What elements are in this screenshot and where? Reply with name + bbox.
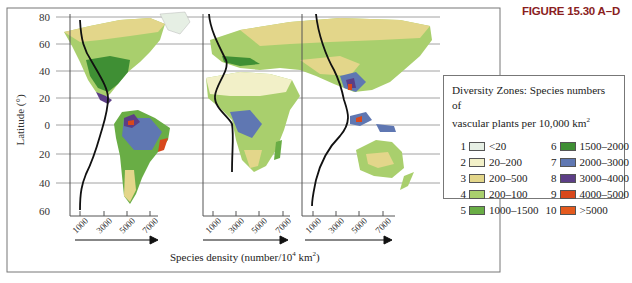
svg-text:3000: 3000	[226, 215, 246, 235]
legend-swatch	[560, 206, 576, 215]
svg-text:7000: 7000	[140, 215, 160, 235]
legend-item: 3200–500	[452, 171, 539, 186]
svg-text:1000: 1000	[203, 215, 223, 235]
svg-text:1000: 1000	[303, 215, 323, 235]
legend-swatch	[560, 190, 576, 199]
legend-item: 1<20	[452, 139, 539, 154]
ytick-label: 60	[39, 38, 51, 50]
svg-text:5000: 5000	[249, 215, 269, 235]
world-map	[64, 12, 432, 204]
legend-swatch	[469, 158, 485, 167]
legend-item: 83000–4000	[543, 171, 630, 186]
legend-item: 61500–2000	[543, 139, 630, 154]
ytick-label: 20	[39, 148, 51, 160]
svg-text:5000: 5000	[117, 215, 137, 235]
ytick-label: 60	[39, 205, 51, 217]
ytick-label: 80	[39, 11, 51, 23]
legend-swatch	[560, 158, 576, 167]
xtick-labels: 1000 3000 5000 7000 1000 3000 5000 7000 …	[70, 215, 393, 235]
legend-swatch	[469, 142, 485, 151]
legend: Diversity Zones: Species numbers of vasc…	[443, 75, 625, 199]
svg-text:7000: 7000	[273, 215, 293, 235]
ytick-label: 0	[45, 119, 51, 131]
x-axis-label: Species density (number/104 km2)	[170, 250, 320, 263]
x-arrows	[75, 236, 392, 244]
ytick-label: 20	[39, 92, 51, 104]
svg-text:7000: 7000	[373, 215, 393, 235]
legend-item: 72000–3000	[543, 155, 630, 170]
svg-text:3000: 3000	[94, 215, 114, 235]
legend-item: 4200–100	[452, 187, 539, 202]
legend-swatch	[560, 142, 576, 151]
ytick-label: 40	[39, 177, 51, 189]
svg-text:5000: 5000	[349, 215, 369, 235]
svg-text:1000: 1000	[70, 215, 90, 235]
legend-swatch	[469, 190, 485, 199]
legend-swatch	[469, 206, 485, 215]
ytick-labels: 80 60 40 20 0 20 40 60	[39, 11, 51, 217]
legend-items: 1<20 61500–2000 220–200 72000–3000 3200–…	[452, 139, 616, 218]
legend-swatch	[469, 174, 485, 183]
ytick-label: 40	[39, 65, 51, 77]
y-axis-label: Latitude (°)	[14, 94, 27, 145]
svg-text:3000: 3000	[326, 215, 346, 235]
legend-swatch	[560, 174, 576, 183]
legend-title: Diversity Zones: Species numbers of vasc…	[452, 83, 616, 131]
legend-item: 94000–5000	[543, 187, 630, 202]
legend-item: 10>5000	[543, 203, 630, 218]
legend-item: 220–200	[452, 155, 539, 170]
legend-item: 51000–1500	[452, 203, 539, 218]
